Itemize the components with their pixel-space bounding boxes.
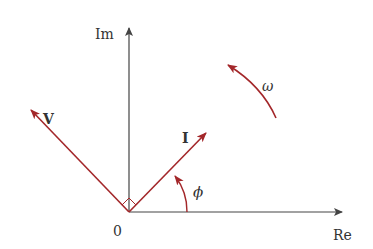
omega-label: ω [262, 78, 274, 94]
phi-angle-arc [175, 176, 187, 212]
origin-label: 0 [113, 223, 122, 239]
phasor-diagram: Im Re 0 V I ϕ ω [0, 0, 373, 249]
phi-label: ϕ [193, 183, 203, 201]
phasor-v-label: V [42, 111, 55, 127]
y-axis-label: Im [95, 26, 114, 42]
x-axis-label: Re [333, 227, 352, 243]
phasor-i-label: I [182, 130, 189, 146]
